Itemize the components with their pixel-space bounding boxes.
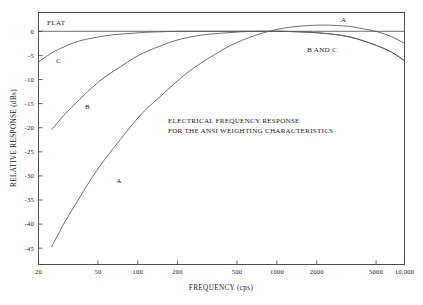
- ytick-label-1: -5: [28, 52, 34, 59]
- curve-label-b-and-c: B AND C: [307, 46, 337, 54]
- ytick-label-0: 0: [31, 28, 35, 35]
- xtick-label-7: 5000: [369, 268, 383, 275]
- ytick-label-3: -15: [25, 100, 35, 107]
- y-axis-ticks: [39, 31, 43, 248]
- ytick-label-8: -40: [25, 220, 35, 227]
- ytick-label-7: -35: [25, 196, 35, 203]
- annotation-line-1: ELECTRICAL FREQUENCY RESPONSE: [168, 117, 300, 125]
- y-axis-title: RELATIVE RESPONSE (dBs): [10, 89, 18, 187]
- ytick-label-2: -10: [25, 76, 35, 83]
- xtick-label-2: 100: [133, 268, 144, 275]
- curve-b-weighting: [52, 31, 405, 129]
- xtick-label-6: 2000: [310, 268, 324, 275]
- curve-label-b: B: [85, 103, 90, 111]
- xtick-label-8: 10,000: [395, 268, 415, 275]
- flat-label: FLAT: [47, 19, 66, 27]
- ytick-label-6: -30: [25, 172, 35, 179]
- xtick-label-0: 20: [35, 268, 42, 275]
- curve-label-a-right: A: [341, 16, 346, 24]
- x-axis-ticks: [39, 261, 405, 265]
- xtick-label-4: 500: [232, 268, 243, 275]
- curve-label-a-left: A: [116, 177, 121, 185]
- frequency-response-chart: 0 -5 -10 -15 -20 -25 -30 -35 -40 -45 20 …: [0, 0, 423, 305]
- xtick-label-3: 200: [172, 268, 183, 275]
- curve-c-weighting: [39, 31, 405, 62]
- figure-container: 0 -5 -10 -15 -20 -25 -30 -35 -40 -45 20 …: [0, 0, 423, 305]
- curve-a-weighting: [52, 25, 405, 247]
- xtick-label-1: 50: [94, 268, 101, 275]
- ytick-label-4: -20: [25, 124, 35, 131]
- ytick-label-5: -25: [25, 148, 35, 155]
- ytick-label-9: -45: [25, 245, 35, 252]
- xtick-label-5: 1000: [270, 268, 284, 275]
- curve-label-c: C: [56, 57, 61, 65]
- annotation-line-2: FOR THE ANSI WEIGHTING CHARACTERISTICS: [168, 127, 333, 135]
- x-axis-title: FREQUENCY (cps): [189, 284, 254, 292]
